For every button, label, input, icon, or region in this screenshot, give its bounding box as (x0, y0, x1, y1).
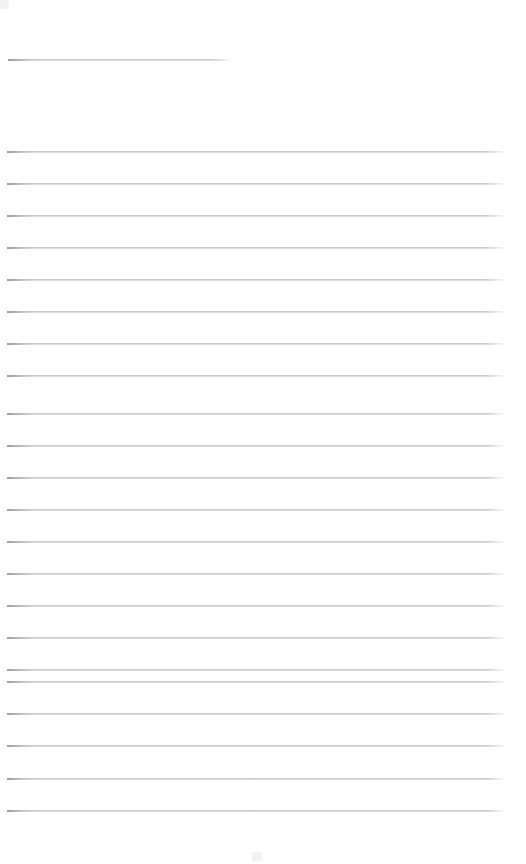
ruled-line (7, 215, 504, 217)
ruled-line (7, 745, 504, 747)
ruled-line (7, 669, 504, 671)
ruled-line (7, 375, 504, 377)
ruled-line (7, 713, 504, 715)
ruled-line (7, 477, 504, 479)
ruled-line (7, 637, 504, 639)
header-rule-line (8, 59, 230, 61)
ruled-line (7, 151, 504, 153)
ruled-line (7, 681, 504, 683)
ruled-line (7, 247, 504, 249)
ruled-line (7, 605, 504, 607)
ruled-line (7, 413, 504, 415)
ruled-line (7, 810, 504, 812)
ruled-line (7, 541, 504, 543)
ruled-line (7, 183, 504, 185)
ruled-line (7, 509, 504, 511)
ruled-line (7, 573, 504, 575)
scanned-page (0, 0, 526, 864)
ruled-line (7, 445, 504, 447)
writing-area[interactable] (0, 0, 526, 864)
ruled-line (7, 343, 504, 345)
ruled-line (7, 311, 504, 313)
ruled-line (7, 778, 504, 780)
ruled-line (7, 279, 504, 281)
